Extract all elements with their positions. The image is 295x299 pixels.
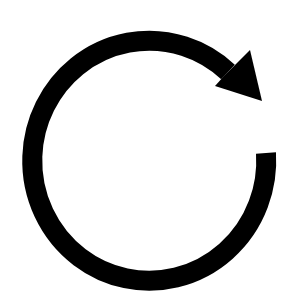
- refresh-icon[interactable]: Refresh / reload (clockwise circular arr…: [0, 0, 295, 299]
- circular-arrow-graphic: [0, 0, 295, 299]
